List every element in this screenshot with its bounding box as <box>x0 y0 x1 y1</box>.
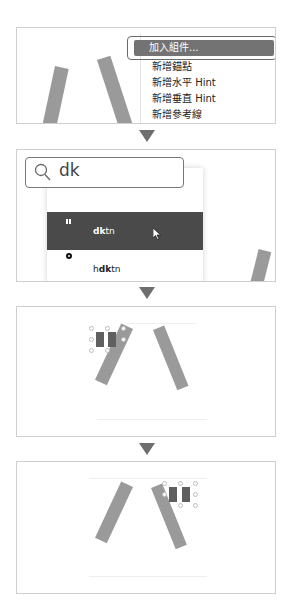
guide-line <box>89 478 207 479</box>
menu-item-add-vertical-hint[interactable]: 新增垂直 Hint <box>152 90 216 105</box>
step-1-context-menu-panel: 加入組件... 新增錨點 新增水平 Hint 新增垂直 Hint 新增參考線 <box>16 27 276 124</box>
selection-handle[interactable] <box>178 481 183 486</box>
selection-handle[interactable] <box>162 492 167 497</box>
guide-line <box>127 323 197 324</box>
dakuten-mark[interactable] <box>169 487 177 502</box>
selection-handle[interactable] <box>178 503 183 508</box>
down-triangle-icon <box>139 130 155 142</box>
guide-line <box>89 576 207 577</box>
menu-item-add-anchor[interactable]: 新增錨點 <box>152 58 192 73</box>
selection-handle[interactable] <box>193 503 198 508</box>
selection-handle[interactable] <box>193 481 198 486</box>
glyph-stroke-left <box>38 66 68 124</box>
guide-line <box>97 419 207 420</box>
mouse-cursor-icon <box>153 228 161 240</box>
step-2-search-panel: dktn hdktn dk <box>16 149 276 282</box>
down-triangle-icon <box>139 443 155 455</box>
dakuten-icon <box>66 219 68 224</box>
component-search-input[interactable]: dk <box>25 157 184 188</box>
handakuten-icon <box>66 253 72 259</box>
glyph-stroke-left <box>95 482 133 544</box>
step-3-component-added-panel <box>16 306 276 437</box>
selection-handle[interactable] <box>89 348 94 353</box>
result-row-hdktn[interactable]: hdktn <box>47 250 203 282</box>
glyph-stroke-partial <box>248 249 272 282</box>
selection-handle[interactable] <box>121 337 126 342</box>
result-label: dktn <box>93 226 115 236</box>
selection-handle[interactable] <box>105 326 110 331</box>
selection-handle[interactable] <box>89 337 94 342</box>
glyph-stroke-right <box>97 56 135 124</box>
down-triangle-icon <box>139 287 155 299</box>
search-icon <box>34 163 52 182</box>
selection-handle[interactable] <box>105 348 110 353</box>
dakuten-mark[interactable] <box>182 487 190 502</box>
glyph-stroke-right <box>153 326 188 391</box>
search-value: dk <box>59 160 80 180</box>
selection-handle[interactable] <box>193 492 198 497</box>
result-row-dktn[interactable]: dktn <box>47 212 203 250</box>
selection-handle[interactable] <box>89 326 94 331</box>
menu-item-add-horizontal-hint[interactable]: 新增水平 Hint <box>152 74 216 89</box>
selection-handle[interactable] <box>162 481 167 486</box>
menu-item-add-guideline[interactable]: 新增參考線 <box>152 106 202 121</box>
step-4-component-moved-panel <box>16 461 276 594</box>
dakuten-mark[interactable] <box>108 332 116 347</box>
result-label: hdktn <box>93 264 120 274</box>
menu-highlight-frame <box>127 36 276 60</box>
selection-handle[interactable] <box>121 326 126 331</box>
dakuten-mark[interactable] <box>96 332 104 347</box>
